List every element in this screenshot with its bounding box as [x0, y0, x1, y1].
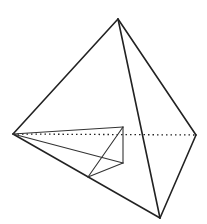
inner-left-to-top: [13, 127, 123, 134]
edge-top-left: [13, 19, 118, 134]
edge-left-bottom: [13, 134, 160, 218]
tetrahedron-diagram: [0, 0, 207, 224]
inner-left-to-right: [13, 134, 123, 163]
edge-left-right-hidden: [13, 134, 196, 135]
edge-right-bottom: [160, 135, 196, 218]
